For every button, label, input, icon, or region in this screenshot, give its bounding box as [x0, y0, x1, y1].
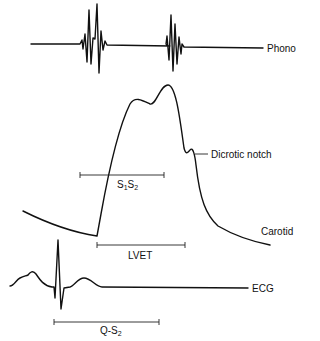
qs2-label: Q-S2 [100, 326, 122, 337]
s1s2-bracket [80, 172, 164, 178]
phono-label: Phono [267, 44, 296, 54]
carotid-trace [23, 85, 270, 245]
ecg-label: ECG [252, 284, 274, 294]
lvet-label: LVET [128, 251, 152, 261]
phono-trace [31, 4, 263, 73]
lvet-bracket [97, 242, 185, 248]
carotid-label: Carotid [261, 227, 293, 237]
dicrotic-notch-label: Dicrotic notch [211, 150, 272, 160]
s1s2-label: S1S2 [117, 180, 138, 191]
